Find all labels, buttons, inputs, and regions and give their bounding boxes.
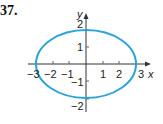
- y-tick-label: −2: [71, 100, 84, 112]
- x-axis-label: x: [147, 68, 154, 80]
- y-tick-label: 2: [77, 18, 83, 30]
- x-tick-label: −2: [44, 68, 57, 80]
- x-tick-label: 2: [116, 68, 122, 80]
- x-tick-label: −3: [27, 68, 40, 80]
- y-tick-label: −1: [71, 76, 84, 88]
- ellipse-plot: −3 −2 −1 1 2 3 x y 2 1 −1 −2: [0, 0, 163, 124]
- x-tick-label: 1: [100, 68, 106, 80]
- x-tick-label: 3: [138, 68, 144, 80]
- x-axis: [28, 62, 151, 67]
- y-tick-label: 1: [77, 41, 83, 53]
